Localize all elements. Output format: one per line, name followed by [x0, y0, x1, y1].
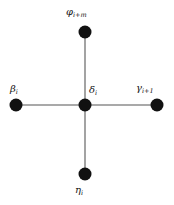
node-label-gamma: γi+1 [136, 83, 154, 93]
node-label-beta: βi [10, 84, 18, 94]
node-label-beta-subscript: i [16, 88, 18, 96]
node-eta [79, 168, 92, 181]
diagram-canvas [0, 0, 174, 205]
node-label-delta: δi [89, 85, 97, 95]
node-group [10, 26, 164, 181]
node-label-eta-subscript: i [81, 189, 83, 197]
node-gamma [151, 99, 164, 112]
node-phi [79, 26, 92, 39]
node-label-gamma-subscript: i+1 [142, 87, 154, 95]
node-label-beta-symbol: β [10, 83, 16, 94]
node-beta [10, 99, 23, 112]
node-delta [79, 99, 92, 112]
node-label-phi-symbol: φ [66, 6, 73, 17]
node-link-diagram: φi+m βi δi γi+1 ηi [0, 0, 174, 205]
node-label-phi-subscript: i+m [73, 11, 87, 19]
node-label-eta: ηi [75, 185, 83, 195]
node-label-delta-subscript: i [95, 89, 97, 97]
node-label-phi: φi+m [66, 7, 87, 17]
